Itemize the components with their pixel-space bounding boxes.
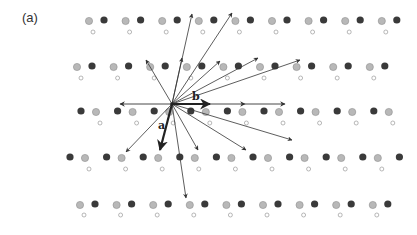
dark-atom	[77, 107, 84, 114]
light-atom	[150, 201, 157, 208]
ring-atom	[262, 76, 266, 80]
dark-atom	[213, 153, 220, 160]
ring-atom	[87, 167, 91, 171]
light-atom	[122, 17, 129, 24]
atom-row	[85, 16, 400, 34]
ring-atom	[265, 213, 269, 217]
ring-atom	[192, 213, 196, 217]
atom-row	[76, 200, 391, 217]
dark-atom	[323, 153, 330, 160]
dark-atom	[88, 62, 95, 69]
ring-atom	[116, 76, 120, 80]
dark-atom	[370, 107, 377, 114]
ring-atom	[124, 167, 128, 171]
dark-atom	[381, 62, 388, 69]
dark-atom	[384, 200, 391, 207]
dark-atom	[396, 153, 403, 160]
light-atom	[259, 201, 266, 208]
dark-atom	[66, 153, 73, 160]
ring-atom	[79, 76, 83, 80]
ring-atom	[225, 76, 229, 80]
ring-atom	[197, 167, 201, 171]
ring-atom	[384, 30, 388, 34]
ring-atom	[91, 30, 95, 34]
dark-atom	[174, 16, 181, 23]
light-atom	[264, 154, 271, 161]
light-atom	[256, 63, 263, 70]
light-atom	[342, 17, 349, 24]
vector-label-a: a	[158, 119, 165, 132]
ring-atom	[347, 30, 351, 34]
ring-atom	[164, 30, 168, 34]
dark-atom	[125, 62, 132, 69]
dark-atom	[140, 153, 147, 160]
ring-atom	[228, 213, 232, 217]
light-atom	[268, 17, 275, 24]
dark-atom	[238, 200, 245, 207]
ring-atom	[128, 30, 132, 34]
dark-atom	[198, 62, 205, 69]
dark-atom	[224, 107, 231, 114]
reciprocal-vector	[172, 104, 186, 198]
dark-atom	[114, 107, 121, 114]
light-atom	[110, 63, 117, 70]
ring-atom	[160, 167, 164, 171]
ring-atom	[119, 213, 123, 217]
lattice-diagram: ba	[0, 0, 417, 235]
dark-atom	[283, 16, 290, 23]
light-atom	[330, 63, 337, 70]
dark-atom	[320, 16, 327, 23]
dark-atom	[274, 200, 281, 207]
dark-atom	[201, 200, 208, 207]
dark-atom	[165, 200, 172, 207]
ring-atom	[354, 121, 358, 125]
light-atom	[186, 201, 193, 208]
dark-atom	[357, 16, 364, 23]
light-atom	[220, 63, 227, 70]
light-atom	[92, 108, 99, 115]
ring-atom	[343, 167, 347, 171]
light-atom	[296, 201, 303, 208]
dark-atom	[297, 107, 304, 114]
dark-atom	[249, 153, 256, 160]
ring-atom	[391, 121, 395, 125]
light-atom	[81, 154, 88, 161]
dark-atom	[137, 16, 144, 23]
ring-atom	[98, 121, 102, 125]
dark-atom	[247, 16, 254, 23]
light-atom	[228, 154, 235, 161]
dark-atom	[308, 62, 315, 69]
ring-atom	[270, 167, 274, 171]
ring-atom	[302, 213, 306, 217]
light-atom	[195, 17, 202, 24]
dark-atom	[334, 107, 341, 114]
ring-atom	[135, 121, 139, 125]
dark-atom	[348, 200, 355, 207]
ring-atom	[380, 167, 384, 171]
light-atom	[232, 17, 239, 24]
light-atom	[312, 108, 319, 115]
atom-row	[77, 107, 394, 125]
ring-atom	[299, 76, 303, 80]
dark-atom	[103, 153, 110, 160]
light-atom	[366, 63, 373, 70]
atom-row	[66, 153, 403, 171]
light-atom	[338, 154, 345, 161]
light-atom	[159, 17, 166, 24]
ring-atom	[335, 76, 339, 80]
ring-atom	[82, 213, 86, 217]
light-atom	[155, 154, 162, 161]
reciprocal-vector	[172, 13, 232, 104]
ring-atom	[244, 121, 248, 125]
atom-row	[73, 62, 388, 80]
dark-atom	[286, 153, 293, 160]
ring-atom	[311, 30, 315, 34]
atom-lattice	[66, 16, 403, 217]
light-atom	[239, 108, 246, 115]
dark-atom	[311, 200, 318, 207]
vector-label-b: b	[192, 90, 200, 103]
light-atom	[378, 17, 385, 24]
light-atom	[293, 63, 300, 70]
light-atom	[118, 154, 125, 161]
origin-point	[170, 102, 174, 106]
